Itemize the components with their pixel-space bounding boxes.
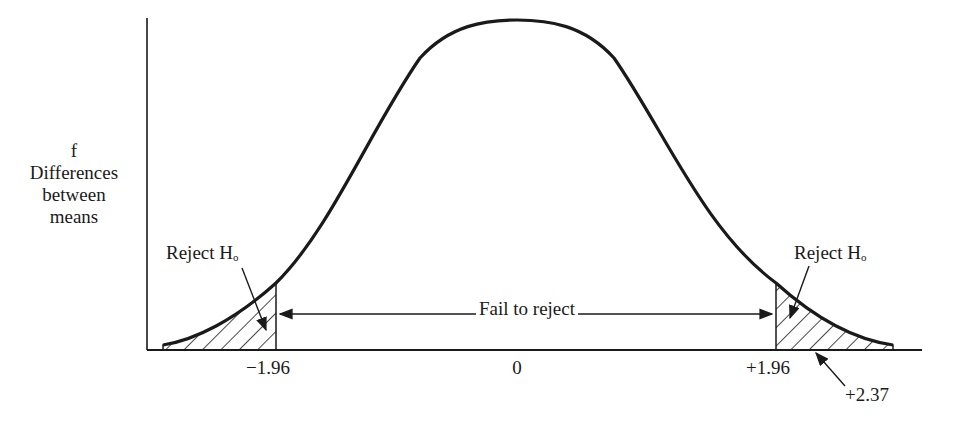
observed-value-pointer — [816, 353, 845, 386]
subscript: o — [861, 251, 867, 263]
right-reject-label: Reject Ho — [794, 242, 867, 268]
y-axis-label-line: means — [0, 206, 148, 228]
observed-value-label: +2.37 — [845, 384, 889, 406]
reject-text: Reject H — [166, 242, 233, 263]
left-reject-label: Reject Ho — [166, 242, 239, 268]
reject-text: Reject H — [794, 242, 861, 263]
x-tick-plus-1-96: +1.96 — [746, 357, 790, 379]
x-tick-zero: 0 — [512, 357, 522, 379]
x-tick-minus-1-96: −1.96 — [246, 357, 290, 379]
y-axis-label: f Differences between means — [0, 140, 148, 228]
fail-to-reject-label: Fail to reject — [476, 298, 578, 320]
y-axis-label-line: between — [0, 184, 148, 206]
y-axis-symbol: f — [0, 140, 148, 162]
subscript: o — [233, 251, 239, 263]
y-axis-label-line: Differences — [0, 162, 148, 184]
